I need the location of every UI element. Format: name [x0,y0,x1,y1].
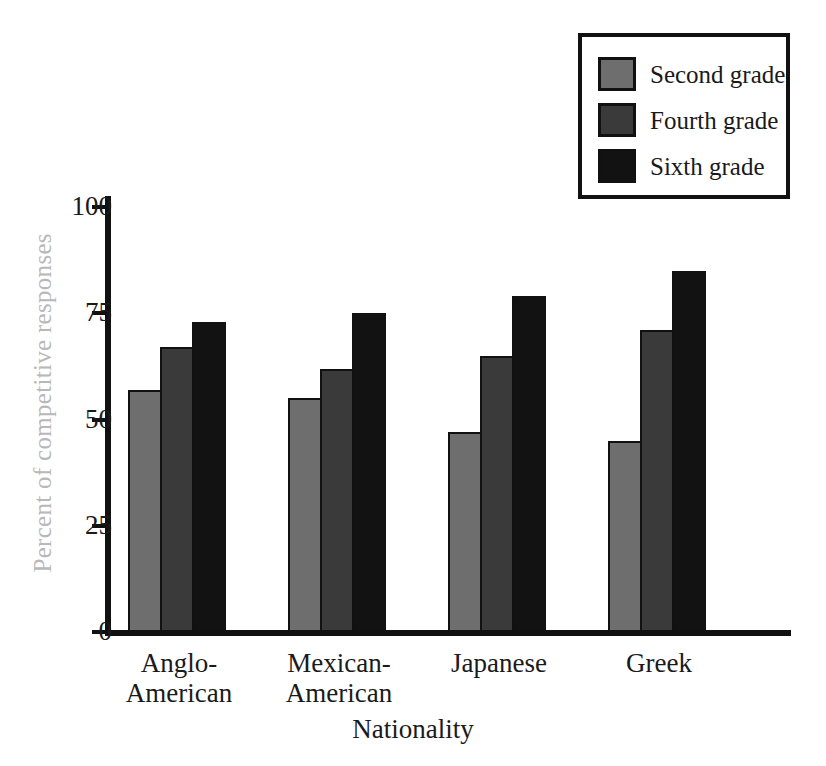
x-tick-label: Mexican- American [286,648,392,708]
bar [480,356,514,632]
legend-label: Second grade [650,62,785,87]
bar [160,347,194,632]
bar [128,390,162,632]
x-tick-label: Anglo- American [126,648,232,708]
legend-item: Second grade [598,51,786,97]
legend-swatch [598,149,636,183]
bar [640,330,674,632]
bar-group-bars [128,322,224,632]
y-tick-label: 0 [52,618,112,645]
bar [512,296,546,632]
y-tick-label: 100 [52,193,112,220]
y-tick-label: 75 [52,299,112,326]
bar-chart: 1007550250 Percent of competitive respon… [0,0,826,766]
legend: Second gradeFourth gradeSixth grade [578,33,790,199]
bar [192,322,226,632]
bar [352,313,386,632]
bar-group-bars [288,313,384,632]
y-tick-label: 50 [52,406,112,433]
bar [608,441,642,632]
legend-item: Fourth grade [598,97,786,143]
bar-group-bars [448,296,544,632]
x-axis-title: Nationality [0,716,826,743]
legend-label: Sixth grade [650,154,765,179]
y-tick-label: 25 [52,512,112,539]
legend-item: Sixth grade [598,143,786,189]
bar [448,432,482,632]
bar [320,369,354,633]
x-tick-label: Japanese [451,648,547,678]
bar [288,398,322,632]
bar [672,271,706,632]
legend-label: Fourth grade [650,108,778,133]
bar-group-bars [608,271,704,632]
legend-swatch [598,103,636,137]
y-axis-title: Percent of competitive responses [30,253,55,573]
legend-swatch [598,57,636,91]
x-tick-label: Greek [626,648,692,678]
